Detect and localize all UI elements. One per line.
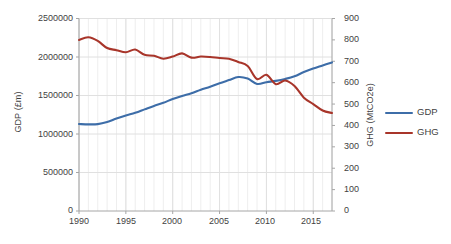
axis-tick-marks: [76, 19, 335, 215]
legend-swatch-gdp: [385, 112, 413, 114]
grid-minor-vertical: [79, 19, 332, 212]
plot-area: [0, 0, 451, 244]
legend-swatch-ghg: [385, 132, 413, 134]
legend-label-gdp: GDP: [417, 106, 438, 117]
chart-container: GDP (£m) GHG (MtCO2e) 2500000 2000000 15…: [0, 0, 451, 244]
legend-label-ghg: GHG: [417, 126, 439, 137]
